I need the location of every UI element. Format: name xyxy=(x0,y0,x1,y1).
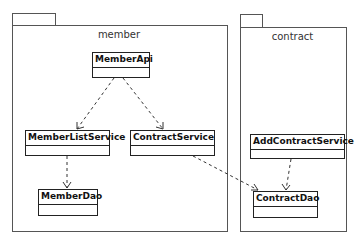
class-attributes xyxy=(93,68,149,78)
class-member-api[interactable]: MemberApi xyxy=(92,52,150,78)
class-attributes xyxy=(39,205,97,215)
class-name: MemberDao xyxy=(39,190,97,205)
class-name: ContractService xyxy=(131,131,214,146)
class-member-list-service[interactable]: MemberListService xyxy=(25,130,110,156)
class-name: ContractDao xyxy=(254,192,317,207)
contract-package-name: contract xyxy=(240,31,345,42)
class-attributes xyxy=(131,146,214,156)
class-attributes xyxy=(251,150,344,160)
class-attributes xyxy=(254,207,317,217)
class-contract-service[interactable]: ContractService xyxy=(130,130,215,156)
class-member-dao[interactable]: MemberDao xyxy=(38,189,98,216)
class-name: AddContractService xyxy=(251,135,344,150)
class-name: MemberListService xyxy=(26,131,109,146)
class-contract-dao[interactable]: ContractDao xyxy=(253,191,318,218)
class-name: MemberApi xyxy=(93,53,149,68)
class-attributes xyxy=(26,146,109,156)
member-package-name: member xyxy=(12,29,226,40)
class-add-contract-service[interactable]: AddContractService xyxy=(250,134,345,159)
